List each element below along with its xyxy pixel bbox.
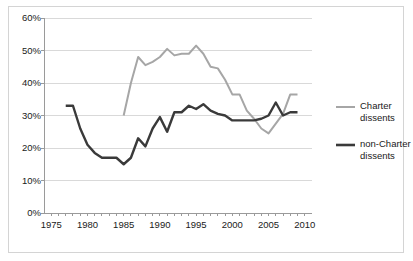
- y-tick-label: 40%: [9, 77, 41, 88]
- gridlines: [44, 18, 312, 181]
- x-tick-label: 2000: [215, 219, 249, 230]
- x-tick-label: 1985: [107, 219, 141, 230]
- x-tick-label: 1995: [179, 219, 213, 230]
- y-tick-label: 10%: [9, 175, 41, 186]
- y-tick-label: 0%: [9, 207, 41, 218]
- series-line-non-charter: [66, 103, 298, 165]
- y-tick-label: 20%: [9, 142, 41, 153]
- y-tick-label: 50%: [9, 45, 41, 56]
- legend-marks: [336, 107, 355, 145]
- x-tick-label: 1980: [70, 219, 104, 230]
- chart-plot-area: [9, 7, 405, 254]
- x-tick-label: 1975: [34, 219, 68, 230]
- legend-label-line2: dissents: [360, 150, 411, 162]
- series-line-charter: [124, 46, 298, 134]
- y-tick-label: 30%: [9, 110, 41, 121]
- legend-label-line1: Charter: [360, 100, 395, 112]
- x-tick-label: 2010: [288, 219, 322, 230]
- data-series-group: [66, 46, 298, 165]
- legend-label-line1: non-Charter: [360, 138, 411, 150]
- x-tick-label: 1990: [143, 219, 177, 230]
- legend-item-label: Charterdissents: [360, 100, 395, 123]
- chart-frame: 0%10%20%30%40%50%60% 1975198019851990199…: [8, 6, 404, 253]
- y-tick-label: 60%: [9, 12, 41, 23]
- legend-label-line2: dissents: [360, 112, 395, 124]
- x-tick-label: 2005: [252, 219, 286, 230]
- legend-item-label: non-Charterdissents: [360, 138, 411, 161]
